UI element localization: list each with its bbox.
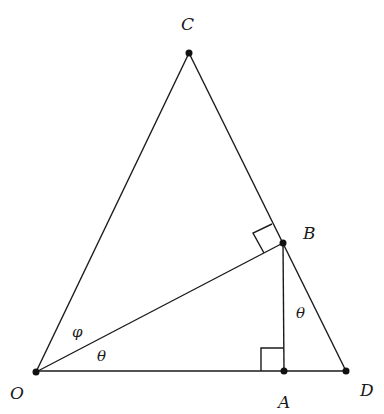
angle-label-theta-O: θ: [97, 347, 106, 365]
angle-label-phi: φ: [72, 323, 83, 341]
geometry-diagram: O A D B C φ θ θ: [0, 0, 384, 414]
right-angle-marker-A: [261, 348, 284, 371]
point-B: [280, 240, 287, 247]
segment-BA: [283, 243, 284, 371]
point-A: [281, 368, 288, 375]
angle-label-theta-B: θ: [296, 304, 305, 322]
segment-OC: [36, 53, 189, 372]
label-A: A: [276, 392, 290, 412]
label-C: C: [181, 14, 194, 34]
right-angle-marker-B: [253, 224, 272, 253]
segment-OB: [36, 243, 283, 372]
point-D: [343, 368, 350, 375]
point-C: [186, 50, 193, 57]
segment-CD: [189, 53, 346, 371]
label-D: D: [359, 380, 374, 400]
point-O: [33, 369, 40, 376]
label-O: O: [10, 383, 24, 403]
label-B: B: [302, 223, 316, 243]
